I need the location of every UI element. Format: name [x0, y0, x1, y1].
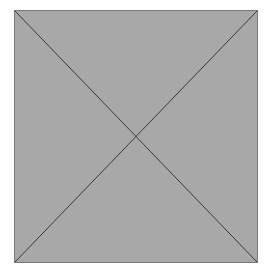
image-placeholder-icon [15, 11, 257, 262]
image-placeholder [14, 10, 258, 263]
